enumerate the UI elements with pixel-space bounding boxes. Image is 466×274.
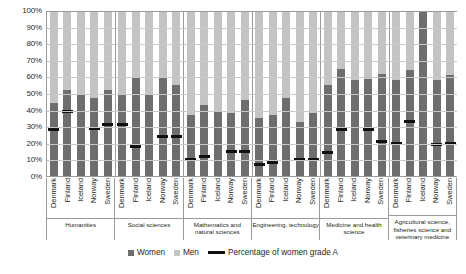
- gridline: [47, 11, 457, 12]
- country-label-text: Norway: [432, 178, 439, 203]
- country-label: Norway: [156, 178, 169, 218]
- plot-area: [46, 11, 457, 177]
- country-label: Finland: [129, 178, 142, 218]
- country-labels: DenmarkFinlandIcelandNorwaySweden: [115, 178, 182, 218]
- bar-segment-women: [145, 94, 153, 177]
- chart-container: 100%90%80%70%60%50%40%30%20%10%0% Denmar…: [0, 0, 466, 274]
- country-label: Finland: [402, 178, 415, 215]
- legend-item-women: Women: [128, 248, 165, 257]
- country-label: Norway: [292, 178, 305, 218]
- y-tick-label: 10%: [2, 156, 42, 164]
- grade-a-marker: [102, 123, 113, 126]
- field-label: Social sciences: [115, 218, 182, 240]
- gridline: [47, 77, 457, 78]
- country-label: Sweden: [169, 178, 182, 218]
- category-axis: DenmarkFinlandIcelandNorwaySwedenHumanit…: [46, 178, 457, 240]
- category-group: DenmarkFinlandIcelandNorwaySwedenMathema…: [183, 178, 251, 240]
- legend-label-men: Men: [183, 248, 199, 257]
- country-label-text: Iceland: [282, 178, 289, 202]
- country-label-text: Finland: [132, 178, 139, 202]
- country-label: Norway: [224, 178, 237, 218]
- grade-a-marker: [171, 135, 182, 138]
- grade-a-marker: [254, 163, 265, 166]
- gridline: [47, 61, 457, 62]
- y-tick-label: 30%: [2, 123, 42, 131]
- field-label: Agricultural science, fisheries science …: [389, 215, 456, 240]
- country-label-text: Norway: [295, 178, 302, 203]
- category-group: DenmarkFinlandIcelandNorwaySwedenAgricul…: [388, 178, 457, 240]
- legend-label-women: Women: [137, 248, 165, 257]
- country-label-text: Denmark: [323, 178, 330, 208]
- country-label-text: Norway: [90, 178, 97, 203]
- legend-label-grade-a: Percentage of women grade A: [228, 248, 338, 257]
- legend-item-men: Men: [174, 248, 199, 257]
- bar-segment-women: [296, 122, 304, 176]
- grade-a-marker: [404, 120, 415, 123]
- bar-segment-women: [50, 103, 58, 176]
- country-label-text: Sweden: [446, 178, 453, 205]
- country-label-text: Iceland: [419, 178, 426, 202]
- country-label: Norway: [429, 178, 442, 215]
- gridline: [47, 127, 457, 128]
- country-label-text: Denmark: [50, 178, 57, 208]
- country-label-text: Norway: [227, 178, 234, 203]
- grade-a-marker: [117, 123, 128, 126]
- country-label-text: Iceland: [214, 178, 221, 202]
- country-label: Iceland: [74, 178, 87, 218]
- country-label-text: Iceland: [350, 178, 357, 202]
- country-label-text: Sweden: [309, 178, 316, 205]
- category-group: DenmarkFinlandIcelandNorwaySwedenHumanit…: [46, 178, 114, 240]
- field-label-text: Agricultural science, fisheries science …: [389, 218, 456, 240]
- field-label-text: Mathematics and natural sciences: [184, 221, 251, 235]
- country-label: Denmark: [320, 178, 333, 218]
- bar-segment-women: [187, 115, 195, 176]
- country-label: Finland: [334, 178, 347, 218]
- y-tick-label: 70%: [2, 57, 42, 65]
- category-group: DenmarkFinlandIcelandNorwaySwedenSocial …: [114, 178, 182, 240]
- country-labels: DenmarkFinlandIcelandNorwaySweden: [320, 178, 387, 218]
- category-group: DenmarkFinlandIcelandNorwaySwedenEnginee…: [251, 178, 319, 240]
- country-label: Iceland: [142, 178, 155, 218]
- country-label: Sweden: [101, 178, 114, 218]
- country-label: Denmark: [47, 178, 60, 218]
- gridline: [47, 28, 457, 29]
- grade-a-marker: [130, 145, 141, 148]
- country-label: Denmark: [252, 178, 265, 218]
- grade-a-marker: [363, 128, 374, 131]
- country-label-text: Norway: [364, 178, 371, 203]
- field-label: Engineering, technology: [252, 218, 319, 240]
- field-label: Humanities: [47, 218, 114, 240]
- bar-segment-women: [200, 105, 208, 176]
- y-tick-label: 90%: [2, 24, 42, 32]
- country-label-text: Norway: [159, 178, 166, 203]
- field-label-text: Humanities: [65, 221, 96, 228]
- country-label-text: Finland: [268, 178, 275, 202]
- country-label: Sweden: [443, 178, 456, 215]
- y-tick-label: 60%: [2, 73, 42, 81]
- bar-segment-women: [269, 115, 277, 176]
- field-label-text: Medicine and health science: [320, 221, 387, 235]
- country-label: Iceland: [347, 178, 360, 218]
- country-label-text: Denmark: [392, 178, 399, 208]
- country-label: Finland: [265, 178, 278, 218]
- y-tick-label: 100%: [2, 7, 42, 15]
- country-label: Denmark: [115, 178, 128, 218]
- field-label: Medicine and health science: [320, 218, 387, 240]
- country-label: Iceland: [416, 178, 429, 215]
- bar-segment-women: [63, 90, 71, 176]
- gridline: [47, 144, 457, 145]
- country-label: Iceland: [211, 178, 224, 218]
- country-label-text: Sweden: [172, 178, 179, 205]
- country-labels: DenmarkFinlandIcelandNorwaySweden: [252, 178, 319, 218]
- bar-segment-women: [324, 85, 332, 176]
- bar-segment-women: [77, 94, 85, 177]
- gridline: [47, 44, 457, 45]
- country-labels: DenmarkFinlandIcelandNorwaySweden: [389, 178, 456, 215]
- grade-a-marker: [239, 150, 250, 153]
- country-label-text: Sweden: [104, 178, 111, 205]
- country-label-text: Denmark: [118, 178, 125, 208]
- grade-a-marker: [267, 161, 278, 164]
- country-label-text: Iceland: [77, 178, 84, 202]
- men-swatch-icon: [174, 250, 180, 256]
- country-label: Norway: [361, 178, 374, 218]
